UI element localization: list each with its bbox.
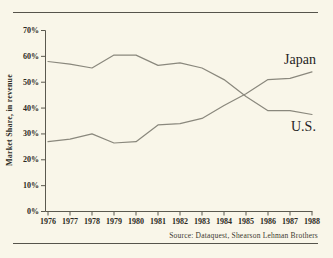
- x-tick-label: 1986: [260, 217, 276, 226]
- x-tick-label: 1984: [216, 217, 232, 226]
- x-tick-label: 1978: [84, 217, 100, 226]
- market-share-line-chart: 0%10%20%30%40%50%60%70%19761977197819791…: [0, 0, 333, 258]
- y-tick-label: 30%: [23, 129, 39, 138]
- us-line: [48, 55, 312, 114]
- japan-series-label: Japan: [284, 52, 316, 68]
- x-tick-label: 1988: [304, 217, 320, 226]
- y-tick-label: 60%: [23, 52, 39, 61]
- japan-line: [48, 72, 312, 143]
- x-tick-label: 1982: [172, 217, 188, 226]
- y-tick-label: 40%: [23, 104, 39, 113]
- x-tick-label: 1979: [106, 217, 122, 226]
- x-tick-label: 1977: [62, 217, 78, 226]
- y-axis-title: Market Share, in revenue: [5, 74, 14, 166]
- bottom-rule: [13, 243, 318, 244]
- x-tick-label: 1987: [282, 217, 298, 226]
- source-text: Source: Dataquest, Shearson Lehman Broth…: [169, 231, 318, 240]
- x-tick-label: 1985: [238, 217, 254, 226]
- y-tick-label: 10%: [23, 181, 39, 190]
- y-tick-label: 0%: [27, 207, 39, 216]
- x-tick-label: 1976: [40, 217, 56, 226]
- x-tick-label: 1981: [150, 217, 166, 226]
- axes: [46, 31, 313, 212]
- x-tick-label: 1983: [194, 217, 210, 226]
- y-tick-label: 70%: [23, 26, 39, 35]
- chart-page: 0%10%20%30%40%50%60%70%19761977197819791…: [0, 0, 333, 258]
- x-tick-label: 1980: [128, 217, 144, 226]
- us-series-label: U.S.: [291, 119, 316, 135]
- y-tick-label: 20%: [23, 155, 39, 164]
- y-tick-label: 50%: [23, 78, 39, 87]
